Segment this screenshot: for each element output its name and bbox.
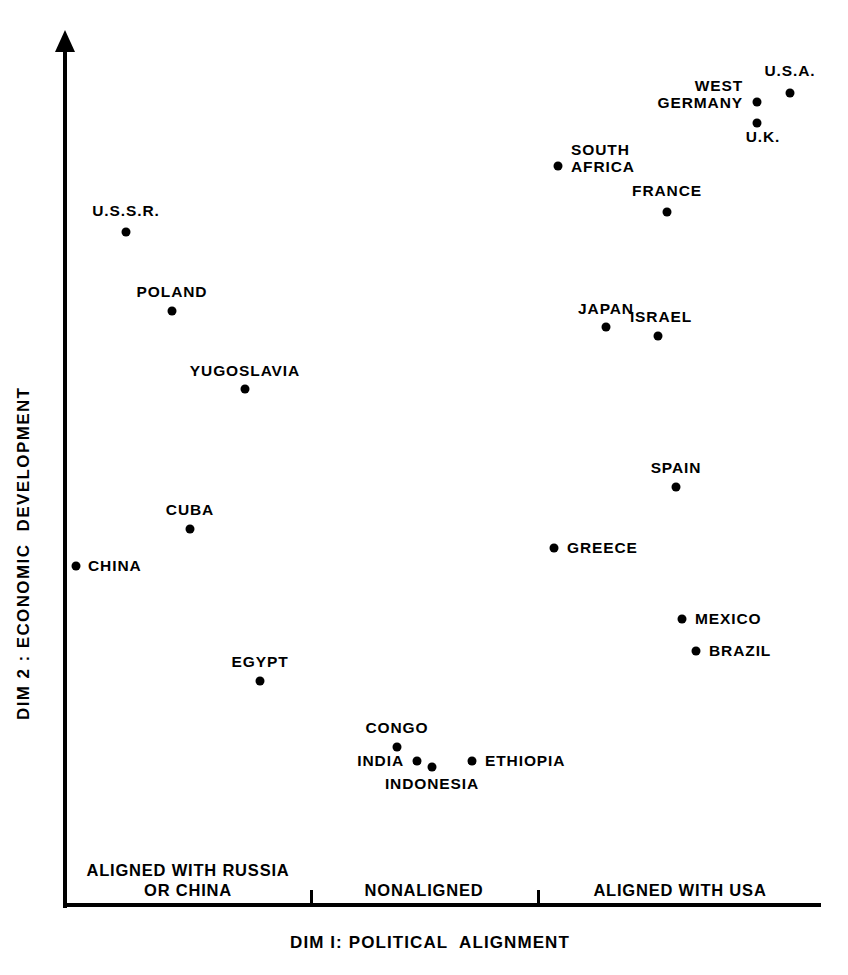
data-point-label: CUBA [166,501,214,518]
x-axis-title: DIM I: POLITICAL ALIGNMENT [290,933,570,953]
data-point-label: U.S.S.R. [92,202,160,219]
x-axis-tick-1 [537,890,540,904]
data-point-label: MEXICO [695,610,762,627]
data-point[interactable] [672,483,681,492]
data-point-label: WEST GERMANY [657,77,743,111]
data-point[interactable] [413,757,422,766]
data-point[interactable] [186,525,195,534]
x-axis-category-label-1: NONALIGNED [365,880,484,900]
data-point[interactable] [786,89,795,98]
data-point-label: YUGOSLAVIA [190,362,300,379]
y-axis-line [63,48,67,908]
data-point[interactable] [72,562,81,571]
data-point[interactable] [168,307,177,316]
data-point-label: GREECE [567,539,638,556]
data-point[interactable] [550,544,559,553]
data-point-label: U.S.A. [764,62,815,79]
data-point-label: JAPAN [578,300,634,317]
data-point-label: U.K. [746,128,781,145]
data-point[interactable] [753,98,762,107]
data-point-label: INDIA [357,752,404,769]
x-axis-category-label-0: ALIGNED WITH RUSSIA OR CHINA [86,860,289,900]
data-point[interactable] [468,757,477,766]
scatter-plot-figure: U.S.A.WEST GERMANYU.K.SOUTH AFRICAFRANCE… [0,0,848,975]
data-point[interactable] [692,647,701,656]
data-point[interactable] [241,385,250,394]
data-point-label: EGYPT [231,653,288,670]
data-point[interactable] [602,323,611,332]
x-axis-category-label-2: ALIGNED WITH USA [593,880,766,900]
data-point-label: SPAIN [651,459,702,476]
x-axis-line [63,903,821,907]
data-point-label: ISRAEL [630,308,692,325]
data-point-label: CHINA [88,557,142,574]
x-axis-tick-0 [310,890,313,904]
data-point-label: CONGO [365,719,428,736]
data-point-label: INDONESIA [385,775,479,792]
data-point[interactable] [554,162,563,171]
data-point[interactable] [678,615,687,624]
y-axis-title: DIM 2 : ECONOMIC DEVELOPMENT [14,300,34,720]
data-point[interactable] [256,677,265,686]
data-point-label: FRANCE [632,182,702,199]
data-point[interactable] [654,332,663,341]
data-point[interactable] [122,228,131,237]
data-point-label: SOUTH AFRICA [571,141,635,175]
data-point-label: BRAZIL [709,642,771,659]
data-point[interactable] [393,743,402,752]
data-point-label: POLAND [137,283,208,300]
data-point[interactable] [428,763,437,772]
data-point-label: ETHIOPIA [485,752,565,769]
data-point[interactable] [663,208,672,217]
data-point[interactable] [753,119,762,128]
